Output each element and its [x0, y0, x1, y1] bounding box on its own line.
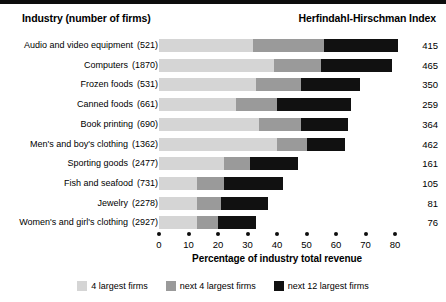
stacked-bar-chart: Industry (number of firms) Herfindahl-Hi…	[0, 0, 446, 302]
row-firm-count: (690)	[137, 119, 158, 129]
bar-segment-next12	[218, 216, 256, 229]
row-industry-name: Frozen foods	[80, 79, 133, 89]
chart-row: Computers(1870)465	[0, 59, 446, 72]
stacked-bar	[159, 157, 298, 170]
row-industry-name: Canned foods	[77, 99, 133, 109]
stacked-bar	[159, 216, 256, 229]
chart-row: Audio and video equipment(521)415	[0, 39, 446, 52]
x-tick-dot	[246, 232, 250, 236]
bar-segment-next4	[197, 177, 224, 190]
x-tick-label: 60	[331, 239, 342, 250]
chart-row: Jewelry(2278)81	[0, 197, 446, 210]
x-tick-label: 20	[213, 239, 224, 250]
row-firm-count: (1362)	[132, 139, 158, 149]
row-firm-count: (661)	[137, 99, 158, 109]
row-label-1: Computers(1870)	[84, 59, 158, 72]
x-axis-title: Percentage of industry total revenue	[159, 253, 395, 264]
row-label-5: Men's and boy's clothing(1362)	[30, 138, 158, 151]
row-label-0: Audio and video equipment(521)	[24, 39, 158, 52]
stacked-bar	[159, 78, 360, 91]
row-label-9: Women's and girl's clothing(2927)	[19, 216, 158, 229]
chart-row: Frozen foods(531)350	[0, 78, 446, 91]
row-industry-name: Audio and video equipment	[24, 40, 133, 50]
stacked-bar	[159, 177, 283, 190]
row-industry-name: Jewelry	[97, 198, 128, 208]
bar-segment-top4	[159, 78, 256, 91]
chart-row: Women's and girl's clothing(2927)76	[0, 216, 446, 229]
bar-segment-next4	[277, 138, 307, 151]
row-industry-name: Fish and seafood	[64, 178, 133, 188]
plot-area: Audio and video equipment(521)415Compute…	[0, 36, 446, 232]
row-hhi-value: 465	[406, 59, 438, 72]
x-axis: Percentage of industry total revenue 010…	[0, 232, 446, 262]
bar-segment-next4	[253, 39, 324, 52]
bar-segment-next4	[224, 157, 251, 170]
bar-segment-top4	[159, 98, 236, 111]
row-firm-count: (521)	[137, 40, 158, 50]
x-tick-dot	[216, 232, 220, 236]
row-hhi-value: 81	[406, 197, 438, 210]
row-label-7: Fish and seafood(731)	[64, 177, 158, 190]
bar-segment-top4	[159, 39, 253, 52]
industry-column-header: Industry (number of firms)	[22, 12, 151, 24]
legend-label: next 4 largest firms	[180, 280, 256, 292]
row-hhi-value: 364	[406, 118, 438, 131]
row-hhi-value: 161	[406, 157, 438, 170]
bar-segment-next12	[321, 59, 392, 72]
bar-segment-top4	[159, 157, 224, 170]
stacked-bar	[159, 138, 345, 151]
x-tick-label: 40	[272, 239, 283, 250]
bar-segment-top4	[159, 216, 197, 229]
bar-segment-next12	[277, 98, 351, 111]
row-firm-count: (731)	[137, 178, 158, 188]
bar-segment-top4	[159, 138, 277, 151]
row-firm-count: (1870)	[132, 60, 158, 70]
chart-row: Men's and boy's clothing(1362)462	[0, 138, 446, 151]
row-industry-name: Book printing	[80, 119, 133, 129]
chart-legend: 4 largest firmsnext 4 largest firmsnext …	[0, 280, 446, 296]
row-hhi-value: 259	[406, 98, 438, 111]
row-hhi-value: 462	[406, 138, 438, 151]
row-hhi-value: 76	[406, 216, 438, 229]
x-tick-dot	[275, 232, 279, 236]
bar-segment-next12	[307, 138, 345, 151]
bar-segment-next12	[324, 39, 398, 52]
row-firm-count: (2927)	[132, 217, 158, 227]
legend-item-1: next 4 largest firms	[166, 280, 256, 292]
bar-segment-next4	[259, 118, 300, 131]
row-hhi-value: 350	[406, 78, 438, 91]
legend-item-2: next 12 largest firms	[274, 280, 369, 292]
stacked-bar	[159, 39, 398, 52]
bar-segment-top4	[159, 177, 197, 190]
x-tick-dot	[334, 232, 338, 236]
hhi-column-header: Herfindahl-Hirschman Index	[299, 12, 436, 24]
chart-row: Sporting goods(2477)161	[0, 157, 446, 170]
bar-segment-next4	[197, 216, 218, 229]
bar-segment-next12	[221, 197, 268, 210]
x-tick-dot	[187, 232, 191, 236]
stacked-bar	[159, 98, 351, 111]
row-label-8: Jewelry(2278)	[97, 197, 158, 210]
row-firm-count: (2278)	[132, 198, 158, 208]
row-label-6: Sporting goods(2477)	[67, 157, 158, 170]
bar-segment-top4	[159, 197, 197, 210]
row-firm-count: (2477)	[132, 158, 158, 168]
bar-segment-next12	[224, 177, 283, 190]
legend-swatch	[166, 281, 176, 291]
x-tick-label: 50	[301, 239, 312, 250]
chart-row: Book printing(690)364	[0, 118, 446, 131]
bar-segment-next4	[236, 98, 277, 111]
row-industry-name: Women's and girl's clothing	[19, 217, 128, 227]
chart-header: Industry (number of firms) Herfindahl-Hi…	[0, 12, 446, 28]
x-tick-label: 10	[183, 239, 194, 250]
x-tick-dot	[157, 232, 161, 236]
legend-swatch	[274, 281, 284, 291]
row-label-3: Canned foods(661)	[77, 98, 158, 111]
chart-row: Fish and seafood(731)105	[0, 177, 446, 190]
row-label-4: Book printing(690)	[80, 118, 158, 131]
row-firm-count: (531)	[137, 79, 158, 89]
bar-segment-next12	[301, 118, 348, 131]
row-industry-name: Men's and boy's clothing	[30, 139, 128, 149]
x-tick-label: 30	[242, 239, 253, 250]
stacked-bar	[159, 197, 268, 210]
